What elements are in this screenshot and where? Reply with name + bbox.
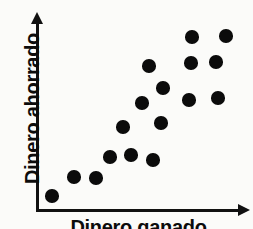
data-point [146, 153, 160, 167]
x-axis-label: Dinero ganado [36, 216, 241, 229]
scatter-plot-figure: Dinero ahorrado Dinero ganado [0, 0, 253, 229]
data-point [209, 55, 223, 69]
data-point [219, 29, 233, 43]
data-point [135, 96, 149, 110]
data-point [185, 30, 199, 44]
data-point [182, 93, 196, 107]
data-point [156, 81, 170, 95]
data-point [211, 91, 225, 105]
data-point [154, 116, 168, 130]
data-point [142, 59, 156, 73]
data-point [124, 148, 138, 162]
data-point [89, 171, 103, 185]
x-axis-line [36, 209, 241, 212]
y-axis-label: Dinero ahorrado [21, 14, 44, 204]
arrow-right-icon [238, 204, 250, 216]
data-point [45, 189, 59, 203]
data-point [67, 170, 81, 184]
data-point [184, 56, 198, 70]
data-point [103, 150, 117, 164]
data-point [116, 120, 130, 134]
